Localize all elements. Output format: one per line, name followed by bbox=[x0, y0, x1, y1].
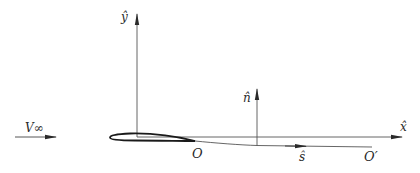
wake-end-label: O′ bbox=[364, 150, 378, 163]
freestream-label: V∞ bbox=[25, 122, 44, 134]
x-axis-label: x̂ bbox=[400, 121, 407, 133]
wake-line bbox=[195, 141, 372, 147]
trailing-edge-label: O bbox=[192, 147, 203, 160]
tangent-label: ŝ bbox=[299, 151, 305, 163]
normal-label: n̂ bbox=[243, 92, 251, 104]
y-axis-label: ŷ bbox=[121, 11, 128, 23]
diagram-canvas bbox=[0, 0, 420, 173]
